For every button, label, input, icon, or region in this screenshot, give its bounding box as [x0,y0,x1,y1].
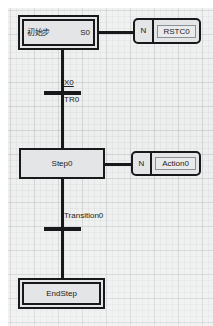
diagram-layer: 初始步 S0 N RSTC0 X0 TR0 Step0 N Action0 Tr… [0,0,213,326]
link-step0-to-transition0 [61,179,64,229]
action-rstc0-body: RSTC0 [154,20,199,42]
action-block-rstc0[interactable]: N RSTC0 [133,18,201,44]
step-initial-step-content: 初始步 S0 [20,29,97,37]
step-initial-step-name: 初始步 [27,29,50,37]
action-rstc0-name[interactable]: RSTC0 [157,25,196,38]
transition-tr0-condition[interactable]: X0 [64,79,74,87]
link-transition0-to-end-step [61,229,64,279]
step-initial-step[interactable]: 初始步 S0 [18,15,99,50]
step-step0[interactable]: Step0 [19,148,105,179]
sfc-editor-screen: 初始步 S0 N RSTC0 X0 TR0 Step0 N Action0 Tr… [0,0,213,326]
step-end-step-name: EndStep [20,290,103,298]
step-end-step[interactable]: EndStep [18,278,105,309]
action-rstc0-qualifier: N [135,20,154,42]
link-step0-to-action-action0 [105,163,132,166]
transition-transition0-name[interactable]: Transition0 [64,212,103,220]
transition-tr0-name[interactable]: TR0 [64,96,79,104]
action-action0-name[interactable]: Action0 [155,157,196,170]
link-initial-step-to-transition-tr0 [61,49,64,94]
action-action0-qualifier: N [133,153,152,174]
step-initial-step-tag: S0 [80,29,90,37]
action-action0-body: Action0 [152,153,199,174]
link-initial-step-to-action-rstc0 [98,31,134,34]
action-block-action0[interactable]: N Action0 [131,151,201,176]
step-step0-name: Step0 [21,160,103,168]
